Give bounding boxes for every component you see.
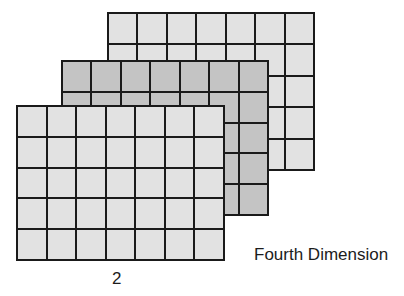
grid-cell: [181, 62, 208, 91]
grid-cell: [77, 107, 105, 136]
grid-cell: [197, 14, 224, 43]
grid-cell: [195, 169, 223, 198]
grid-cell: [286, 108, 313, 137]
grid-cell: [48, 138, 76, 167]
grid-cell: [240, 185, 267, 214]
grid-cell: [138, 14, 165, 43]
grid-cell: [77, 230, 105, 259]
grid-cell: [227, 14, 254, 43]
grid-cell: [18, 138, 46, 167]
grid-cell: [166, 199, 194, 228]
grid-cell: [240, 154, 267, 183]
front-layer: [16, 105, 225, 261]
grid-cell: [195, 138, 223, 167]
grid-cell: [151, 62, 178, 91]
grid-cell: [63, 62, 90, 91]
grid-cell: [77, 138, 105, 167]
grid-cell: [166, 169, 194, 198]
layer-index-label: 2: [112, 270, 121, 287]
grid-cell: [286, 45, 313, 74]
grid-cell: [195, 107, 223, 136]
grid-cell: [136, 169, 164, 198]
grid-cell: [240, 93, 267, 122]
grid-cell: [48, 107, 76, 136]
grid-cell: [107, 107, 135, 136]
grid-cell: [107, 169, 135, 198]
grid-cell: [168, 14, 195, 43]
grid-cell: [18, 107, 46, 136]
grid-cell: [18, 199, 46, 228]
grid-cell: [18, 230, 46, 259]
grid-cell: [195, 230, 223, 259]
grid-cell: [166, 230, 194, 259]
grid-cell: [210, 62, 237, 91]
grid-cell: [48, 199, 76, 228]
grid-cell: [107, 138, 135, 167]
grid-cell: [48, 230, 76, 259]
grid-cell: [107, 199, 135, 228]
grid-cell: [256, 14, 283, 43]
grid-cell: [166, 107, 194, 136]
grid-cell: [122, 62, 149, 91]
grid-cell: [77, 169, 105, 198]
grid-cell: [195, 199, 223, 228]
grid-cell: [286, 77, 313, 106]
grid-cell: [240, 62, 267, 91]
grid-cell: [92, 62, 119, 91]
grid-cell: [109, 14, 136, 43]
grid-cell: [136, 138, 164, 167]
grid-cell: [48, 169, 76, 198]
grid-cell: [286, 140, 313, 169]
grid-cell: [240, 124, 267, 153]
grid-cell: [18, 169, 46, 198]
grid-cell: [166, 138, 194, 167]
grid-cell: [136, 230, 164, 259]
grid-cell: [136, 107, 164, 136]
grid-cell: [107, 230, 135, 259]
grid-cell: [136, 199, 164, 228]
diagram-caption: Fourth Dimension: [254, 246, 388, 263]
grid-cell: [77, 199, 105, 228]
grid-cell: [286, 14, 313, 43]
